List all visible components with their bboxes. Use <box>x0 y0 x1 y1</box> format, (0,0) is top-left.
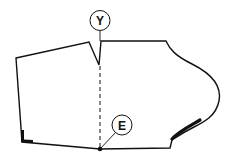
marker-label-e: E <box>118 119 126 133</box>
corner-mark <box>21 130 33 143</box>
pattern-diagram: E Y <box>0 0 233 162</box>
marker-label-y: Y <box>96 14 104 28</box>
thick-curve-segment <box>172 120 200 139</box>
leader-line-e <box>100 133 115 149</box>
